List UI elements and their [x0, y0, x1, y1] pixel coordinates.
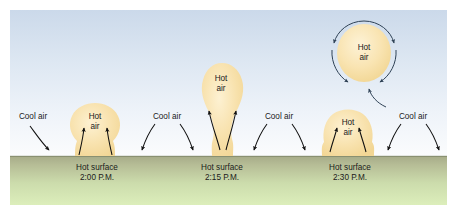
hot-air-label-3-line1: Hot: [342, 118, 355, 127]
hot-air-label-1-line1: Hot: [89, 112, 102, 121]
hot-surface-label-1: Hot surface: [76, 163, 118, 172]
stage-1-group: Hot air Hot surface 2:00 P.M.: [70, 103, 120, 182]
time-label-3: 2:30 P.M.: [333, 173, 367, 182]
cool-air-label-3: Cool air: [265, 112, 293, 121]
detached-hot-air-label-line2: air: [359, 53, 368, 62]
detached-hot-air-label-line1: Hot: [358, 43, 371, 52]
cool-air-label-1: Cool air: [19, 112, 47, 121]
time-label-1: 2:00 P.M.: [80, 173, 114, 182]
convection-diagram: Hot air Hot surface 2:00 P.M. Hot air Ho…: [0, 0, 457, 215]
hot-air-label-1-line2: air: [90, 122, 99, 131]
diagram-canvas: Hot air Hot surface 2:00 P.M. Hot air Ho…: [0, 0, 457, 215]
cool-air-label-2: Cool air: [153, 112, 181, 121]
hot-air-label-2-line1: Hot: [215, 74, 228, 83]
hot-surface-label-2: Hot surface: [201, 163, 243, 172]
hot-air-label-2-line2: air: [216, 84, 225, 93]
time-label-2: 2:15 P.M.: [205, 173, 239, 182]
hot-air-label-3-line2: air: [343, 128, 352, 137]
hot-surface-label-3: Hot surface: [329, 163, 371, 172]
cool-air-label-4: Cool air: [399, 112, 427, 121]
